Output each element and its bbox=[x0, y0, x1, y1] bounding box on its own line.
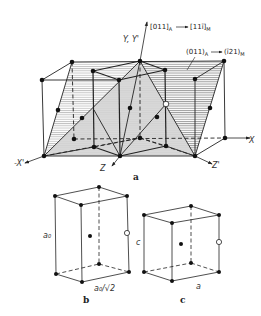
svg-text:(011)A: (011)A bbox=[186, 48, 209, 57]
axis-neg-x-label: -X' bbox=[14, 159, 24, 168]
plane-annotation: (011)A (ī21)M bbox=[186, 48, 245, 57]
axis-z-label: Z bbox=[99, 164, 106, 173]
axis-y bbox=[140, 22, 147, 61]
base-label-b: a₀/√2 bbox=[94, 284, 115, 293]
panel-a: Y, Y' X -X' Z Z' [011]A [11ī]M (011)A (ī… bbox=[14, 22, 255, 182]
svg-text:[011]A: [011]A bbox=[150, 23, 173, 32]
caption-b: b bbox=[83, 295, 89, 305]
height-label-b: a₀ bbox=[43, 231, 52, 240]
panel-b: a₀ a₀/√2 b bbox=[43, 185, 131, 305]
base-label-c: a bbox=[196, 282, 201, 291]
caption-c: c bbox=[180, 295, 186, 305]
axis-z-prime-label: Z' bbox=[211, 161, 220, 170]
svg-text:(ī21)M: (ī21)M bbox=[224, 48, 245, 57]
axis-y-label: Y, Y' bbox=[123, 35, 139, 44]
axis-neg-x bbox=[25, 156, 44, 163]
panel-c: c a c bbox=[136, 204, 222, 305]
crystal-structure-diagram: Y, Y' X -X' Z Z' [011]A [11ī]M (011)A (ī… bbox=[0, 0, 261, 316]
open-atom-b bbox=[124, 230, 129, 235]
open-atom-c bbox=[216, 239, 221, 244]
open-atom bbox=[163, 101, 169, 107]
svg-text:[11ī]M: [11ī]M bbox=[190, 23, 211, 32]
direction-annotation: [011]A [11ī]M bbox=[150, 23, 211, 32]
axis-z-prime bbox=[195, 156, 212, 164]
caption-a: a bbox=[133, 172, 139, 182]
height-label-c: c bbox=[136, 238, 141, 247]
axis-x-label: X bbox=[248, 136, 255, 145]
